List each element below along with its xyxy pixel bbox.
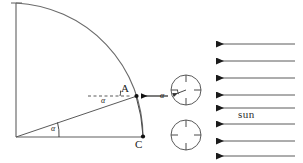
geometry-figure: [0, 0, 303, 163]
label-angle-upper: α: [101, 97, 105, 105]
label-point-c: C: [135, 139, 142, 150]
arc-segment-a-to-c: [136, 96, 143, 136]
lower-circle-group: [171, 120, 201, 150]
angle-arc-lower: [58, 123, 60, 138]
label-angle-circle: α: [160, 92, 164, 100]
label-sun: sun: [238, 109, 255, 120]
upper-circle-inner-arrow: [173, 90, 186, 95]
sun-rays-group: [216, 44, 295, 156]
label-angle-lower: α: [51, 125, 55, 133]
diagram-canvas: A C α α α sun: [0, 0, 303, 163]
point-a-marker: [134, 94, 138, 98]
quarter-circle-arc: [16, 3, 143, 137]
radius-line-origin-to-a: [16, 96, 137, 137]
upper-circle-group: [171, 75, 201, 105]
label-point-a: A: [121, 83, 129, 94]
